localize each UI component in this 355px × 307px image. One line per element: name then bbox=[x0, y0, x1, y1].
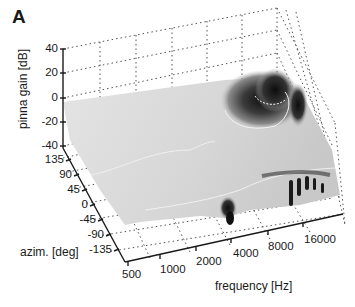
x-axis-title: frequency [Hz] bbox=[215, 279, 292, 293]
y-tick: -90 bbox=[70, 228, 104, 240]
x-tick: 8000 bbox=[268, 240, 294, 252]
y-tick: -45 bbox=[62, 213, 96, 225]
y-tick: 135 bbox=[30, 153, 64, 165]
y-tick: 0 bbox=[54, 198, 88, 210]
z-tick: 20 bbox=[30, 66, 58, 78]
z-axis-title: pinna gain [dB] bbox=[16, 39, 30, 139]
z-tick: -40 bbox=[30, 139, 58, 151]
y-axis-title: azim. [deg] bbox=[20, 245, 79, 259]
y-tick: -135 bbox=[78, 243, 112, 255]
x-tick: 500 bbox=[122, 268, 141, 280]
z-tick: -20 bbox=[30, 115, 58, 127]
x-tick: 16000 bbox=[304, 233, 336, 245]
x-tick: 4000 bbox=[233, 247, 259, 259]
z-tick: 40 bbox=[30, 42, 58, 54]
y-tick: 45 bbox=[46, 183, 80, 195]
y-tick: 90 bbox=[38, 168, 72, 180]
gain-surface bbox=[63, 68, 340, 225]
x-tick: 1000 bbox=[160, 263, 186, 275]
x-tick: 2000 bbox=[196, 255, 222, 267]
z-tick: 0 bbox=[30, 91, 58, 103]
